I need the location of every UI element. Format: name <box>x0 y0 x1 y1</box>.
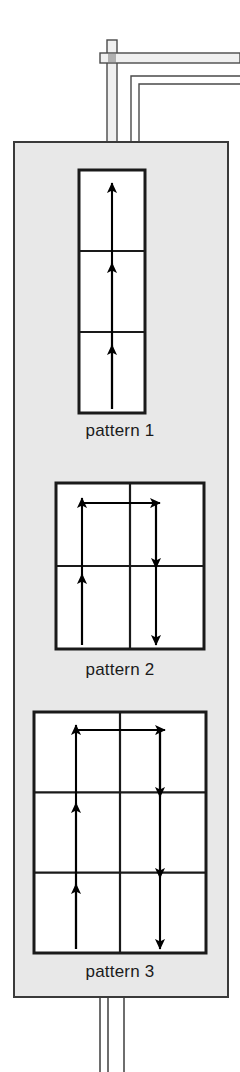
pipe-bottom-group <box>100 995 124 1072</box>
pattern-diagram <box>0 0 240 1072</box>
pipe-branch-lower <box>139 84 240 146</box>
pipe-junction-node <box>108 54 116 62</box>
pipe-horizontal-main <box>100 53 240 63</box>
pipe-branch-upper <box>131 76 240 146</box>
figure-canvas <box>0 0 240 1072</box>
pattern-2 <box>56 483 204 649</box>
pattern-3 <box>34 712 206 953</box>
pipe-network <box>100 40 240 146</box>
pattern-1 <box>79 170 145 413</box>
